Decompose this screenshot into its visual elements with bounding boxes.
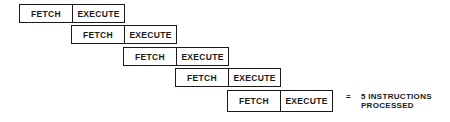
instruction-row-5: FETCH EXECUTE bbox=[227, 90, 333, 112]
result-line-2: PROCESSED bbox=[361, 101, 432, 110]
fetch-cell: FETCH bbox=[20, 5, 72, 22]
execute-cell: EXECUTE bbox=[124, 26, 176, 43]
result-line-1: 5 INSTRUCTIONS bbox=[361, 92, 432, 101]
execute-cell: EXECUTE bbox=[176, 48, 228, 65]
execute-cell: EXECUTE bbox=[228, 69, 280, 86]
fetch-cell: FETCH bbox=[72, 26, 124, 43]
instruction-row-1: FETCH EXECUTE bbox=[19, 4, 125, 23]
equals-sign: = bbox=[346, 92, 351, 110]
fetch-cell: FETCH bbox=[124, 48, 176, 65]
fetch-cell: FETCH bbox=[176, 69, 228, 86]
instruction-row-4: FETCH EXECUTE bbox=[175, 68, 281, 87]
execute-cell: EXECUTE bbox=[72, 5, 124, 22]
instruction-row-2: FETCH EXECUTE bbox=[71, 25, 177, 44]
instruction-row-3: FETCH EXECUTE bbox=[123, 47, 229, 66]
fetch-cell: FETCH bbox=[228, 91, 280, 111]
result-annotation: = 5 INSTRUCTIONS PROCESSED bbox=[346, 92, 432, 110]
execute-cell: EXECUTE bbox=[280, 91, 332, 111]
